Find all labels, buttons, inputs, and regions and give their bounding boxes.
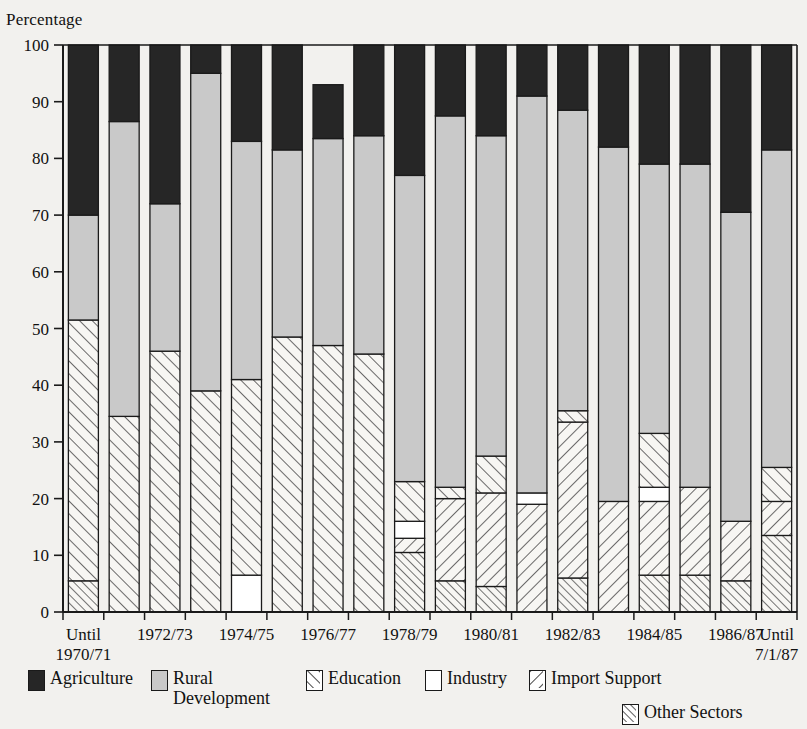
bar-stack[interactable] xyxy=(68,45,98,612)
bar-segment-industry[interactable] xyxy=(639,487,669,501)
bar-segment-rural[interactable] xyxy=(109,122,139,417)
bar-stack[interactable] xyxy=(517,45,547,612)
bar-stack[interactable] xyxy=(109,45,139,612)
legend-item-agriculture[interactable]: Agriculture xyxy=(28,668,133,691)
bar-stack[interactable] xyxy=(762,45,792,612)
legend-item-import_support[interactable]: Import Support xyxy=(529,668,662,691)
bar-segment-import_support[interactable] xyxy=(517,504,547,612)
bar-segment-other[interactable] xyxy=(762,535,792,612)
bar-segment-import_support[interactable] xyxy=(476,493,506,587)
bar-segment-rural[interactable] xyxy=(435,116,465,487)
bar-segment-agriculture[interactable] xyxy=(435,45,465,116)
bar-segment-agriculture[interactable] xyxy=(272,45,302,150)
bar-segment-rural[interactable] xyxy=(191,73,221,391)
bar-segment-agriculture[interactable] xyxy=(721,45,751,212)
bar-stack[interactable] xyxy=(395,45,425,612)
bar-segment-rural[interactable] xyxy=(599,147,629,501)
bar-segment-agriculture[interactable] xyxy=(354,45,384,136)
bar-segment-agriculture[interactable] xyxy=(395,45,425,175)
bar-stack[interactable] xyxy=(435,45,465,612)
bar-segment-rural[interactable] xyxy=(150,204,180,351)
bar-segment-education[interactable] xyxy=(232,380,262,576)
bar-segment-industry[interactable] xyxy=(232,575,262,612)
bar-segment-other[interactable] xyxy=(395,552,425,612)
bar-segment-agriculture[interactable] xyxy=(639,45,669,164)
bar-segment-education[interactable] xyxy=(68,320,98,581)
bar-segment-education[interactable] xyxy=(150,351,180,612)
legend-row-secondary: Other Sectors xyxy=(622,702,756,725)
bar-segment-rural[interactable] xyxy=(395,175,425,481)
bar-segment-rural[interactable] xyxy=(721,212,751,521)
bar-segment-other[interactable] xyxy=(435,581,465,612)
bar-segment-education[interactable] xyxy=(272,337,302,612)
bar-segment-rural[interactable] xyxy=(639,164,669,433)
bar-segment-agriculture[interactable] xyxy=(313,85,343,139)
bar-stack[interactable] xyxy=(354,45,384,612)
bar-segment-import_support[interactable] xyxy=(680,487,710,575)
bar-segment-agriculture[interactable] xyxy=(599,45,629,147)
y-axis-ticks: 0102030405060708090100 xyxy=(24,36,64,622)
bar-segment-import_support[interactable] xyxy=(721,521,751,581)
bar-stack[interactable] xyxy=(721,45,751,612)
bar-segment-education[interactable] xyxy=(109,416,139,612)
bar-segment-education[interactable] xyxy=(395,482,425,522)
bar-segment-other[interactable] xyxy=(558,578,588,612)
bar-segment-import_support[interactable] xyxy=(639,501,669,575)
bar-stack[interactable] xyxy=(191,45,221,612)
bar-stack[interactable] xyxy=(599,45,629,612)
bar-stack[interactable] xyxy=(272,45,302,612)
legend-item-other[interactable]: Other Sectors xyxy=(622,702,742,725)
bar-stack[interactable] xyxy=(313,85,343,612)
bar-segment-rural[interactable] xyxy=(762,150,792,468)
bar-segment-other[interactable] xyxy=(721,581,751,612)
bar-segment-rural[interactable] xyxy=(354,136,384,354)
bar-stack[interactable] xyxy=(680,45,710,612)
bar-segment-agriculture[interactable] xyxy=(476,45,506,136)
bar-segment-rural[interactable] xyxy=(476,136,506,456)
legend-item-rural[interactable]: RuralDevelopment xyxy=(151,668,270,708)
legend-item-education[interactable]: Education xyxy=(306,668,401,691)
bar-segment-rural[interactable] xyxy=(232,141,262,379)
bar-segment-agriculture[interactable] xyxy=(558,45,588,110)
bar-segment-import_support[interactable] xyxy=(762,501,792,535)
bar-stack[interactable] xyxy=(639,45,669,612)
bar-segment-import_support[interactable] xyxy=(558,422,588,578)
bar-segment-education[interactable] xyxy=(639,433,669,487)
bar-segment-agriculture[interactable] xyxy=(232,45,262,141)
bar-segment-industry[interactable] xyxy=(395,521,425,538)
bar-segment-agriculture[interactable] xyxy=(150,45,180,204)
bar-segment-education[interactable] xyxy=(558,411,588,422)
bar-segment-education[interactable] xyxy=(435,487,465,498)
bar-segment-rural[interactable] xyxy=(680,164,710,487)
legend-item-industry[interactable]: Industry xyxy=(425,668,507,691)
bar-segment-agriculture[interactable] xyxy=(68,45,98,215)
bar-segment-agriculture[interactable] xyxy=(109,45,139,122)
bar-segment-education[interactable] xyxy=(313,346,343,612)
bar-segment-agriculture[interactable] xyxy=(680,45,710,164)
bar-stack[interactable] xyxy=(150,45,180,612)
bar-segment-import_support[interactable] xyxy=(435,499,465,581)
bar-stack[interactable] xyxy=(476,45,506,612)
bar-segment-education[interactable] xyxy=(191,391,221,612)
bar-segment-rural[interactable] xyxy=(313,139,343,346)
bar-segment-industry[interactable] xyxy=(517,493,547,504)
bar-segment-other[interactable] xyxy=(639,575,669,612)
bar-segment-agriculture[interactable] xyxy=(762,45,792,150)
bar-segment-rural[interactable] xyxy=(558,110,588,411)
bar-segment-education[interactable] xyxy=(354,354,384,612)
bar-segment-rural[interactable] xyxy=(272,150,302,337)
bar-segment-import_support[interactable] xyxy=(395,538,425,552)
bar-segment-rural[interactable] xyxy=(68,215,98,320)
bar-segment-other[interactable] xyxy=(680,575,710,612)
bar-segment-agriculture[interactable] xyxy=(191,45,221,73)
bar-segment-rural[interactable] xyxy=(517,96,547,493)
bar-stack[interactable] xyxy=(558,45,588,612)
bar-segment-agriculture[interactable] xyxy=(517,45,547,96)
x-axis-ticks xyxy=(63,612,797,620)
bar-segment-education[interactable] xyxy=(762,467,792,501)
bar-segment-other[interactable] xyxy=(476,586,506,612)
bar-segment-other[interactable] xyxy=(68,581,98,612)
bar-segment-import_support[interactable] xyxy=(599,501,629,612)
bar-segment-education[interactable] xyxy=(476,456,506,493)
bar-stack[interactable] xyxy=(232,45,262,612)
